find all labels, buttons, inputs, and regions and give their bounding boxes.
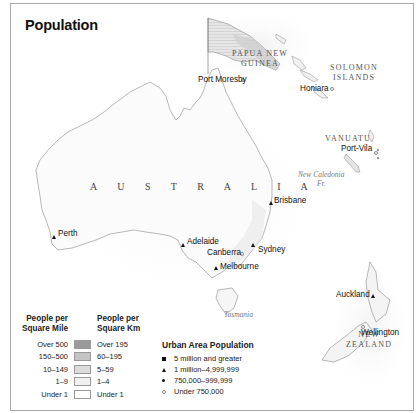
legend-density-row: 1–9 1–4 bbox=[18, 376, 157, 389]
label-line: ZEALAND bbox=[346, 340, 392, 350]
legend-value-mile: 150–500 bbox=[18, 352, 68, 361]
legend-density-row: Over 500 Over 195 bbox=[18, 338, 157, 351]
label-new-caledonia: New Caledonia Fr. bbox=[298, 170, 344, 188]
city-marker-circle-icon bbox=[374, 151, 378, 155]
legend-urban-row: 5 million and greater bbox=[162, 353, 254, 364]
legend-header-km: People per Square Km bbox=[97, 314, 157, 334]
city-marker-triangle-icon bbox=[52, 235, 56, 239]
legend-population-density: People per Square Mile People per Square… bbox=[18, 314, 157, 401]
legend-urban-row: 1 million–4,999,999 bbox=[162, 364, 254, 375]
legend-urban-label: Under 750,000 bbox=[174, 387, 224, 396]
label-line: ISLANDS bbox=[330, 73, 378, 83]
legend-value-mile: 10–149 bbox=[18, 365, 68, 374]
legend-swatch bbox=[74, 352, 91, 361]
legend-header-line: People per bbox=[97, 314, 157, 324]
legend-value-mile: Under 1 bbox=[18, 390, 68, 399]
legend-value-km: Over 195 bbox=[97, 340, 157, 349]
legend-urban-label: 1 million–4,999,999 bbox=[174, 365, 239, 374]
city-canberra: Canberra bbox=[207, 248, 241, 257]
city-marker-triangle-icon bbox=[214, 266, 218, 270]
city-marker-triangle-icon bbox=[181, 243, 185, 247]
legend-swatch bbox=[74, 377, 91, 386]
legend-value-km: 5–59 bbox=[97, 365, 157, 374]
legend-header-line: People per bbox=[18, 314, 68, 324]
legend-header-line: Square Km bbox=[97, 324, 157, 334]
legend-urban-title: Urban Area Population bbox=[162, 340, 254, 350]
label-solomon-islands: SOLOMON ISLANDS bbox=[330, 63, 378, 83]
legend-value-km: 60–195 bbox=[97, 352, 157, 361]
legend-urban-label: 5 million and greater bbox=[174, 354, 242, 363]
legend-value-km: Under 1 bbox=[97, 390, 157, 399]
city-adelaide: Adelaide bbox=[187, 237, 219, 246]
city-marker-triangle-icon bbox=[371, 294, 375, 298]
label-papua-new-guinea: PAPUA NEW GUINEA bbox=[232, 49, 288, 69]
legend-header-mile: People per Square Mile bbox=[18, 314, 68, 334]
square-marker-icon bbox=[162, 357, 166, 361]
city-marker-circle-icon bbox=[330, 87, 334, 91]
legend-swatch bbox=[74, 390, 91, 399]
city-marker-triangle-icon bbox=[269, 201, 273, 205]
label-line: SOLOMON bbox=[330, 63, 378, 73]
label-line: Fr. bbox=[298, 179, 344, 188]
label-line: New Caledonia bbox=[298, 170, 344, 179]
legend-value-mile: Over 500 bbox=[18, 340, 68, 349]
city-port-vila: Port-Vila bbox=[341, 144, 372, 153]
label-vanuatu: VANUATU bbox=[325, 134, 371, 144]
dot-marker-icon bbox=[162, 379, 165, 382]
city-perth: Perth bbox=[58, 229, 78, 238]
legend-density-row: Under 1 Under 1 bbox=[18, 388, 157, 401]
city-honiara: Honiara bbox=[300, 84, 329, 93]
label-line: GUINEA bbox=[232, 59, 288, 69]
city-port-moresby: Port Moresby bbox=[198, 75, 247, 84]
label-line: PAPUA NEW bbox=[232, 49, 288, 59]
legend-urban-row: 750,000–999,999 bbox=[162, 375, 254, 386]
legend-swatch bbox=[74, 365, 91, 374]
legend-density-row: 150–500 60–195 bbox=[18, 351, 157, 364]
legend-value-km: 1–4 bbox=[97, 377, 157, 386]
city-brisbane: Brisbane bbox=[274, 196, 306, 205]
new-caledonia-landmass bbox=[344, 154, 360, 172]
legend-density-row: 10–149 5–59 bbox=[18, 363, 157, 376]
map-title: Population bbox=[25, 17, 98, 33]
city-sydney: Sydney bbox=[258, 245, 285, 254]
label-australia: A U S T R A L I A bbox=[90, 181, 317, 192]
city-marker-triangle-icon bbox=[251, 243, 255, 247]
legend-swatch bbox=[74, 340, 91, 349]
city-auckland: Auckland bbox=[336, 290, 370, 299]
legend-header-line: Square Mile bbox=[18, 324, 68, 334]
legend-urban-row: Under 750,000 bbox=[162, 386, 254, 397]
city-melbourne: Melbourne bbox=[220, 262, 259, 271]
circle-marker-icon bbox=[162, 390, 166, 394]
legend-urban-label: 750,000–999,999 bbox=[174, 376, 232, 385]
legend-urban-population: Urban Area Population 5 million and grea… bbox=[162, 340, 254, 397]
label-tasmania: Tasmania bbox=[224, 310, 253, 319]
legend-density-header: People per Square Mile People per Square… bbox=[18, 314, 157, 334]
city-wellington: Wellington bbox=[361, 328, 399, 337]
legend-value-mile: 1–9 bbox=[18, 377, 68, 386]
triangle-marker-icon bbox=[162, 368, 166, 372]
